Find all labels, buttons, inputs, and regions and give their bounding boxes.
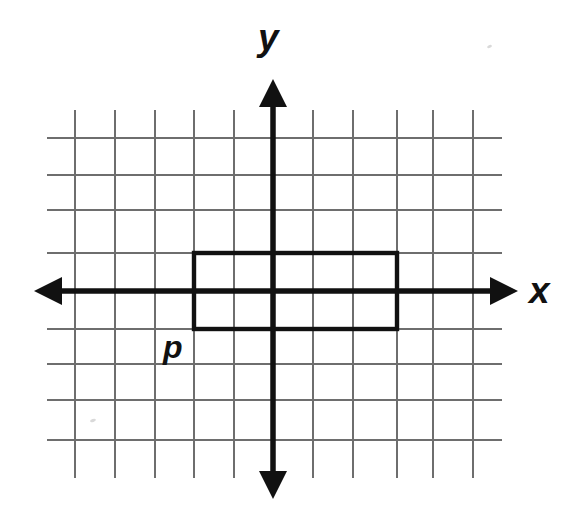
graph-canvas xyxy=(0,0,578,529)
x-axis-right-arrowhead xyxy=(490,277,518,305)
y-axis-bottom-arrowhead xyxy=(259,471,287,499)
axes xyxy=(34,79,518,499)
shape-label-p: p xyxy=(163,330,183,364)
x-axis-label: x xyxy=(529,271,550,311)
y-axis-label: y xyxy=(258,18,279,58)
x-axis-left-arrowhead xyxy=(34,277,62,305)
y-axis-top-arrowhead xyxy=(259,79,287,107)
coordinate-plane-figure: y x p xyxy=(0,0,578,529)
